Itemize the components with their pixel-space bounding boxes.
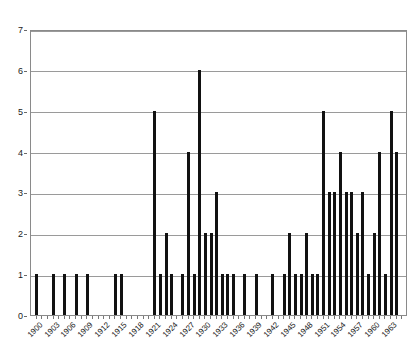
bar-chart: 01234567 1900190319061909191219151918192… — [0, 0, 417, 355]
y-tick-mark-3 — [24, 193, 27, 194]
x-tick-mark-1936 — [238, 316, 239, 319]
x-tick-label-1951: 1951 — [313, 321, 331, 339]
x-tick-mark-1935 — [233, 316, 234, 319]
x-tick-mark-1913 — [109, 316, 110, 319]
x-tick-mark-1962 — [384, 316, 385, 319]
x-tick-mark-1953 — [334, 316, 335, 319]
bar — [255, 274, 258, 315]
x-tick-mark-1934 — [227, 316, 228, 319]
x-tick-mark-1958 — [362, 316, 363, 319]
x-tick-mark-1922 — [159, 316, 160, 319]
bar — [305, 233, 308, 315]
x-tick-mark-1943 — [278, 316, 279, 319]
x-tick-label-1909: 1909 — [77, 321, 95, 339]
x-tick-label-1948: 1948 — [296, 321, 314, 339]
bar — [378, 152, 381, 315]
bar — [187, 152, 190, 315]
x-tick-mark-1909 — [86, 316, 87, 319]
bar — [333, 192, 336, 315]
x-tick-mark-1929 — [199, 316, 200, 319]
y-tick-mark-0 — [24, 316, 27, 317]
x-tick-label-1927: 1927 — [178, 321, 196, 339]
x-tick-mark-1941 — [266, 316, 267, 319]
bar — [75, 274, 78, 315]
x-tick-mark-1924 — [171, 316, 172, 319]
bar — [86, 274, 89, 315]
x-tick-mark-1960 — [373, 316, 374, 319]
x-tick-label-1954: 1954 — [330, 321, 348, 339]
x-tick-label-1930: 1930 — [195, 321, 213, 339]
x-tick-mark-1944 — [283, 316, 284, 319]
x-tick-mark-1925 — [176, 316, 177, 319]
x-tick-mark-1946 — [294, 316, 295, 319]
y-tick-label-1: 1 — [18, 271, 23, 280]
y-tick-label-3: 3 — [18, 189, 23, 198]
bar — [221, 274, 224, 315]
x-tick-mark-1911 — [98, 316, 99, 319]
x-tick-mark-1959 — [368, 316, 369, 319]
x-tick-label-1918: 1918 — [127, 321, 145, 339]
gridline-y-5 — [31, 112, 406, 113]
x-tick-mark-1955 — [345, 316, 346, 319]
bar — [243, 274, 246, 315]
bar — [339, 152, 342, 315]
y-tick-mark-5 — [24, 112, 27, 113]
x-tick-mark-1939 — [255, 316, 256, 319]
bar — [384, 274, 387, 315]
x-tick-mark-1927 — [188, 316, 189, 319]
bar — [373, 233, 376, 315]
bar — [294, 274, 297, 315]
x-tick-label-1936: 1936 — [229, 321, 247, 339]
bar — [226, 274, 229, 315]
bar — [170, 274, 173, 315]
plot-area — [30, 30, 407, 316]
y-tick-label-7: 7 — [18, 26, 23, 35]
y-tick-mark-2 — [24, 234, 27, 235]
x-tick-label-1942: 1942 — [262, 321, 280, 339]
y-axis: 01234567 — [0, 0, 30, 355]
bar — [328, 192, 331, 315]
x-tick-mark-1957 — [356, 316, 357, 319]
x-tick-label-1957: 1957 — [347, 321, 365, 339]
x-tick-mark-1951 — [323, 316, 324, 319]
bar — [215, 192, 218, 315]
bar — [288, 233, 291, 315]
x-tick-mark-1903 — [53, 316, 54, 319]
x-tick-mark-1900 — [36, 316, 37, 319]
x-tick-mark-1963 — [390, 316, 391, 319]
bar — [390, 111, 393, 315]
x-tick-mark-1902 — [47, 316, 48, 319]
x-tick-mark-1956 — [351, 316, 352, 319]
x-tick-mark-1931 — [210, 316, 211, 319]
x-tick-mark-1910 — [92, 316, 93, 319]
y-tick-label-2: 2 — [18, 230, 23, 239]
y-tick-label-0: 0 — [18, 312, 23, 321]
bar — [345, 192, 348, 315]
bar — [322, 111, 325, 315]
gridline-y-4 — [31, 153, 406, 154]
bar — [361, 192, 364, 315]
y-tick-label-6: 6 — [18, 66, 23, 75]
x-tick-mark-1947 — [300, 316, 301, 319]
x-tick-mark-1932 — [216, 316, 217, 319]
bar — [120, 274, 123, 315]
x-tick-label-1960: 1960 — [364, 321, 382, 339]
x-tick-label-1963: 1963 — [381, 321, 399, 339]
x-tick-label-1939: 1939 — [245, 321, 263, 339]
y-tick-mark-4 — [24, 153, 27, 154]
bar — [52, 274, 55, 315]
x-tick-label-1903: 1903 — [43, 321, 61, 339]
x-tick-label-1945: 1945 — [279, 321, 297, 339]
x-tick-mark-1965 — [401, 316, 402, 319]
x-tick-mark-1918 — [137, 316, 138, 319]
x-tick-mark-1907 — [75, 316, 76, 319]
x-tick-mark-1905 — [64, 316, 65, 319]
bar — [367, 274, 370, 315]
x-tick-mark-1908 — [81, 316, 82, 319]
x-tick-mark-1942 — [272, 316, 273, 319]
x-tick-mark-1930 — [204, 316, 205, 319]
bar — [204, 233, 207, 315]
bar — [198, 70, 201, 315]
x-tick-mark-1920 — [148, 316, 149, 319]
x-tick-mark-1915 — [120, 316, 121, 319]
